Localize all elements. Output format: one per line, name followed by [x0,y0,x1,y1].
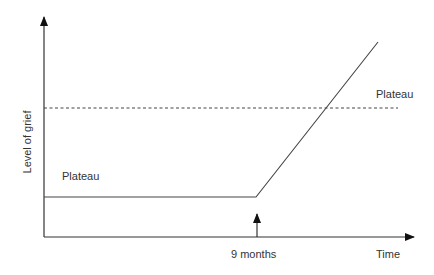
x-axis-label: Time [376,248,400,260]
plateau-high-label: Plateau [376,88,413,100]
nine-months-label: 9 months [231,248,276,260]
y-axis-label: Level of grief [21,111,33,174]
grief-diagram [0,0,434,275]
plateau-low-label: Plateau [62,170,99,182]
